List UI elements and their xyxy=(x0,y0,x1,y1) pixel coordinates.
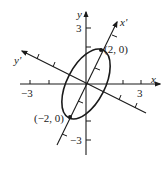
y-prime-axis-label: y' xyxy=(13,54,22,66)
tick-label-x-neg3: −3 xyxy=(21,87,33,99)
x-axis xyxy=(20,80,160,84)
ellipse-diagram: x y x' y' −3 3 3 −3 (2, 0) (−2, 0) xyxy=(0,0,164,175)
tick-label-x-3: 3 xyxy=(137,87,143,99)
tick-label-y-3: 3 xyxy=(76,22,82,34)
point-2-0 xyxy=(99,48,103,52)
point-label-neg2-0: (−2, 0) xyxy=(34,112,64,125)
point-label-2-0: (2, 0) xyxy=(104,43,128,56)
diagram-svg: x y x' y' −3 3 3 −3 (2, 0) (−2, 0) xyxy=(0,0,164,175)
y-axis-label: y xyxy=(76,8,82,20)
x-prime-axis-label: x' xyxy=(119,16,128,28)
point-neg2-0 xyxy=(68,115,72,119)
y-prime-axis xyxy=(22,51,146,113)
x-axis-label: x xyxy=(150,73,156,85)
tick-label-y-neg3: −3 xyxy=(70,134,82,146)
